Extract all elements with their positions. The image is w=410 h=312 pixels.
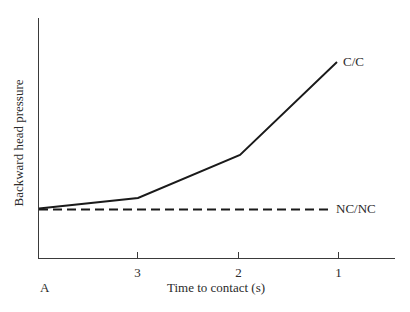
x-tick-label-1: 1 bbox=[335, 265, 342, 280]
series-line-cc bbox=[39, 62, 337, 209]
x-tick-label-2: 2 bbox=[235, 265, 242, 280]
line-chart-canvas: 3 2 1 C/C NC/NC Time to contact (s) Back… bbox=[0, 0, 410, 312]
y-axis-title: Backward head pressure bbox=[11, 79, 26, 206]
x-tick-label-3: 3 bbox=[134, 265, 141, 280]
series-label-cc: C/C bbox=[343, 54, 364, 69]
panel-label: A bbox=[40, 280, 50, 295]
x-axis-title: Time to contact (s) bbox=[167, 280, 265, 295]
figure-root: 3 2 1 C/C NC/NC Time to contact (s) Back… bbox=[0, 0, 410, 312]
series-label-ncnc: NC/NC bbox=[336, 201, 376, 216]
